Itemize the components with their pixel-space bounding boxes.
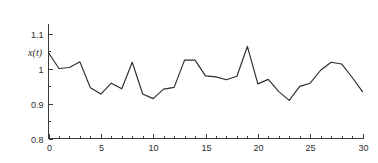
y-axis-title: x(t) [27, 47, 43, 59]
x-tick-label: 25 [305, 143, 315, 153]
y-tick-label: 0.9 [31, 100, 44, 110]
x-tick-label: 30 [358, 143, 368, 153]
x-tick-label: 10 [148, 143, 158, 153]
y-tick-label: 0.8 [31, 135, 44, 145]
x-axis-tick-labels: 051015202530 [47, 143, 369, 153]
x-tick-label: 20 [253, 143, 263, 153]
y-tick-label: 1.1 [31, 30, 44, 40]
x-tick-label: 15 [201, 143, 211, 153]
data-series-line [49, 46, 363, 100]
chart-figure: 0.80.911.1 051015202530 x(t) [0, 0, 378, 163]
x-tick-label: 0 [47, 143, 52, 153]
x-tick-label: 5 [99, 143, 104, 153]
chart-axes [49, 24, 363, 139]
y-tick-label: 1 [38, 65, 43, 75]
x-axis-major-ticks [50, 134, 364, 139]
line-chart: 0.80.911.1 051015202530 x(t) [0, 0, 378, 163]
